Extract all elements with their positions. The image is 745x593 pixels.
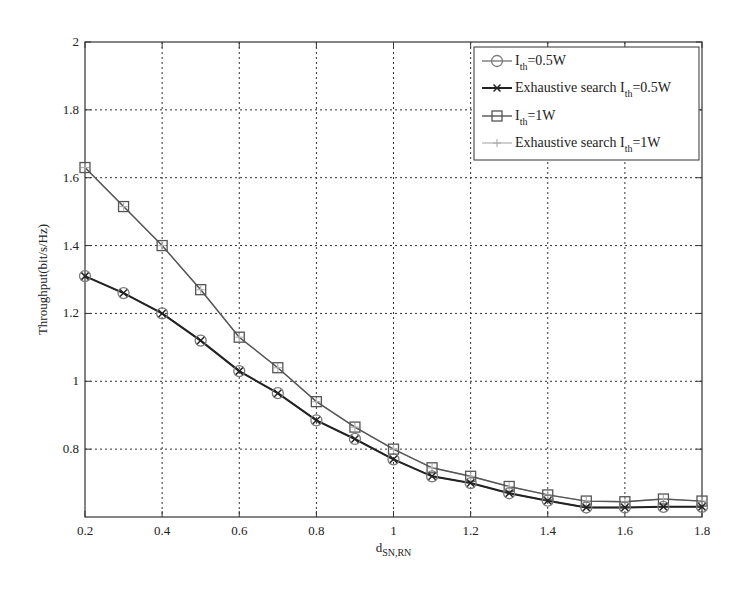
y-tick-label: 1.2: [63, 305, 79, 320]
x-tick-label: 1: [390, 523, 397, 538]
throughput-chart: 0.20.40.60.811.21.41.61.8 0.811.21.41.61…: [0, 0, 745, 593]
x-tick-label: 0.6: [231, 523, 248, 538]
x-tick-labels: 0.20.40.60.811.21.41.61.8: [77, 523, 710, 538]
series-3-point: [390, 445, 398, 453]
x-tick-label: 1.4: [540, 523, 557, 538]
y-tick-label: 1: [73, 373, 80, 388]
legend-label-tail: =1W: [527, 108, 556, 123]
y-tick-label: 0.8: [63, 441, 79, 456]
legend-label-tail: =1W: [632, 135, 661, 150]
x-tick-label: 0.8: [308, 523, 324, 538]
legend: Ith=0.5WExhaustive search Ith=0.5WIth=1W…: [474, 47, 699, 160]
x-tick-label: 1.6: [617, 523, 634, 538]
legend-label-tail: =0.5W: [632, 80, 671, 95]
legend-label-main: Exhaustive search I: [515, 80, 625, 95]
legend-label-tail: =0.5W: [527, 53, 566, 68]
y-tick-label: 1.6: [63, 170, 80, 185]
x-axis-label-subscript: SN,RN: [382, 547, 411, 558]
legend-label-main: Exhaustive search I: [515, 135, 625, 150]
legend-label-subscript: th: [625, 143, 633, 154]
y-tick-label: 1.4: [63, 238, 80, 253]
y-tick-label: 1.8: [63, 102, 79, 117]
series-3-point: [351, 423, 359, 431]
series-1-point: [159, 310, 166, 317]
series-1-point: [274, 390, 281, 397]
series-1-point: [351, 435, 358, 442]
y-tick-label: 2: [73, 34, 80, 49]
legend-label-subscript: th: [625, 88, 633, 99]
x-tick-label: 1.8: [694, 523, 710, 538]
legend-label-subscript: th: [520, 61, 528, 72]
x-tick-label: 0.4: [154, 523, 171, 538]
legend-label-subscript: th: [520, 116, 528, 127]
y-axis-label: Throughput(bit/s/Hz): [35, 224, 50, 335]
x-tick-label: 1.2: [463, 523, 479, 538]
x-tick-label: 0.2: [77, 523, 93, 538]
series-1-point: [197, 337, 204, 344]
x-axis-label: dSN,RN: [376, 540, 412, 558]
y-tick-labels: 0.811.21.41.61.82: [63, 34, 80, 456]
